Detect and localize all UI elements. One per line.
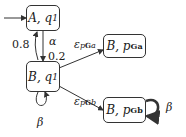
- label-alpha: α: [49, 36, 56, 47]
- eps-sub-x: a: [91, 41, 96, 50]
- state-b-pgb: B, pGb: [103, 97, 146, 123]
- state-b-q1: B, q1: [26, 61, 60, 92]
- node-label: B, p: [106, 39, 130, 53]
- edge-b-to-a: [35, 32, 38, 60]
- prob-0-8: 0.8: [12, 39, 30, 50]
- label-eps-pgb: εpGb: [74, 96, 96, 107]
- node-label: B, q: [28, 70, 52, 84]
- node-sub: 1: [52, 72, 58, 82]
- label-beta-b: β: [37, 117, 43, 128]
- edge-b-to-pga: [59, 50, 103, 68]
- self-loop-b: [36, 92, 46, 106]
- state-a-q1: A, q1: [26, 5, 60, 31]
- state-b-pga: B, pGa: [103, 34, 146, 58]
- prob-0-2: 0.2: [48, 51, 66, 62]
- node-label: B, p: [106, 103, 130, 117]
- label-eps-pga: εpGa: [74, 39, 96, 50]
- eps-sub-x: b: [91, 98, 96, 107]
- node-sub: Ga: [131, 41, 143, 51]
- node-label: A, q: [28, 11, 52, 25]
- self-loop-pgb: [146, 100, 158, 116]
- label-beta-pgb: β: [166, 102, 172, 113]
- node-sub: Gb: [130, 105, 142, 115]
- node-sub: 1: [52, 13, 58, 23]
